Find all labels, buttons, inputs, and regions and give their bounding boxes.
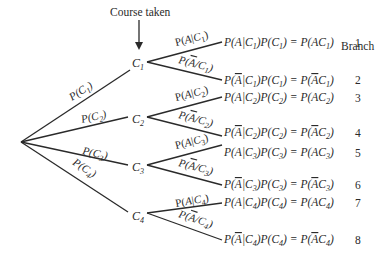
edge-label-abar-c4: P(A/C4) — [176, 207, 215, 233]
equation-branch-7: P(A|C4)P(C4) = P(AC4) — [223, 196, 334, 211]
equation-branch-3: P(A|C2)P(C2) = P(AC2) — [223, 91, 334, 106]
equation-branch-4: P(A|C2)P(C2) = P(AC2) — [223, 126, 334, 141]
node-c1: C1 — [132, 56, 144, 72]
equation-branch-6: P(A|C3)P(C3) = P(AC3) — [223, 178, 334, 193]
edge-label-a-c1: P(A|C1) — [174, 28, 211, 51]
branch-numbers: 1 2 3 4 5 6 7 8 — [355, 37, 361, 246]
svg-text:P(A|C3): P(A|C3) — [174, 131, 211, 154]
branch-number: 3 — [355, 92, 361, 104]
edge-label-pc4: P(C4) — [68, 155, 99, 182]
node-c4: C4 — [132, 209, 144, 225]
edge-label-a-c2: P(A|C2) — [174, 83, 211, 106]
branch-number: 7 — [355, 197, 361, 209]
equation-branch-2: P(A|C1)P(C1) = P(AC1) — [223, 74, 334, 89]
arrow-down-icon — [135, 42, 143, 50]
branch-number: 6 — [355, 179, 361, 191]
edge-c2 — [21, 117, 128, 142]
equation-branch-8: P(A|C4)P(C4) = P(AC4) — [223, 233, 334, 248]
svg-text:P(A/C3): P(A/C3) — [176, 156, 215, 179]
probability-tree-diagram: Course taken Branch P(C1) P(C2) P(C3) P(… — [0, 0, 390, 261]
svg-text:P(A/C2): P(A/C2) — [176, 108, 215, 131]
edge-c4 — [21, 142, 128, 212]
branch-number: 4 — [355, 127, 361, 139]
branch-number: 8 — [355, 234, 361, 246]
equation-branch-1: P(A|C1)P(C1) = P(AC1) — [223, 36, 334, 51]
edge-label-a-c3: P(A|C3) — [174, 131, 211, 154]
edge-c1 — [21, 70, 130, 142]
edge-label-abar-c2: P(A/C2) — [176, 108, 215, 131]
svg-text:P(A/C4): P(A/C4) — [176, 207, 215, 233]
edge-label-abar-c3: P(A/C3) — [176, 156, 215, 179]
svg-text:P(A|C2): P(A|C2) — [174, 83, 211, 106]
branch-number: 2 — [355, 74, 361, 86]
equation-branch-5: P(A|C3)P(C3) = P(AC3) — [223, 146, 334, 161]
branch-number: 5 — [355, 147, 361, 159]
node-c2: C2 — [132, 112, 144, 128]
branch-number: 1 — [355, 37, 361, 49]
svg-text:P(A|C1): P(A|C1) — [174, 28, 211, 51]
equations: P(A|C1)P(C1) = P(AC1) P(A|C1)P(C1) = P(A… — [223, 36, 334, 248]
svg-text:P(C4): P(C4) — [68, 155, 99, 182]
node-c3: C3 — [132, 160, 144, 176]
course-taken-label: Course taken — [110, 6, 171, 18]
